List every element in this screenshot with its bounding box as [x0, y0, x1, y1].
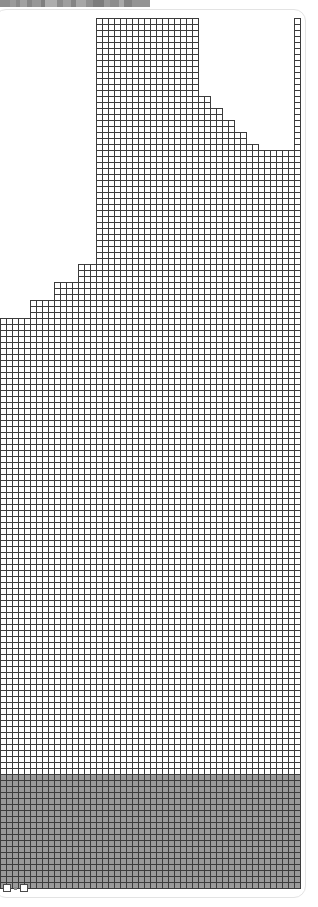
grid-cell[interactable]: [13, 859, 19, 865]
grid-cell[interactable]: [223, 859, 229, 865]
grid-cell[interactable]: [175, 679, 181, 685]
grid-cell[interactable]: [109, 433, 115, 439]
grid-cell[interactable]: [31, 691, 37, 697]
grid-cell[interactable]: [121, 217, 127, 223]
grid-cell[interactable]: [235, 607, 241, 613]
grid-cell[interactable]: [145, 691, 151, 697]
grid-cell[interactable]: [73, 775, 79, 781]
grid-cell[interactable]: [205, 661, 211, 667]
grid-cell[interactable]: [295, 505, 301, 511]
grid-cell[interactable]: [163, 475, 169, 481]
grid-cell[interactable]: [289, 313, 295, 319]
grid-cell[interactable]: [97, 355, 103, 361]
grid-cell[interactable]: [55, 733, 61, 739]
grid-cell[interactable]: [49, 373, 55, 379]
grid-cell[interactable]: [109, 619, 115, 625]
grid-cell[interactable]: [211, 583, 217, 589]
grid-cell[interactable]: [151, 757, 157, 763]
grid-cell[interactable]: [253, 457, 259, 463]
grid-cell[interactable]: [133, 685, 139, 691]
grid-cell[interactable]: [283, 277, 289, 283]
grid-cell[interactable]: [271, 403, 277, 409]
grid-cell[interactable]: [133, 181, 139, 187]
grid-cell[interactable]: [271, 643, 277, 649]
grid-cell[interactable]: [289, 385, 295, 391]
grid-cell[interactable]: [241, 685, 247, 691]
grid-cell[interactable]: [115, 145, 121, 151]
grid-cell[interactable]: [49, 697, 55, 703]
grid-cell[interactable]: [61, 361, 67, 367]
grid-cell[interactable]: [37, 301, 43, 307]
grid-cell[interactable]: [205, 697, 211, 703]
grid-cell[interactable]: [25, 529, 31, 535]
grid-cell[interactable]: [109, 691, 115, 697]
grid-cell[interactable]: [241, 319, 247, 325]
grid-cell[interactable]: [139, 445, 145, 451]
grid-cell[interactable]: [199, 355, 205, 361]
grid-cell[interactable]: [283, 619, 289, 625]
grid-cell[interactable]: [151, 679, 157, 685]
grid-cell[interactable]: [295, 193, 301, 199]
grid-cell[interactable]: [277, 637, 283, 643]
grid-cell[interactable]: [133, 505, 139, 511]
grid-cell[interactable]: [1, 643, 7, 649]
grid-cell[interactable]: [43, 673, 49, 679]
grid-cell[interactable]: [283, 193, 289, 199]
grid-cell[interactable]: [109, 637, 115, 643]
grid-cell[interactable]: [259, 619, 265, 625]
grid-cell[interactable]: [139, 151, 145, 157]
grid-cell[interactable]: [157, 157, 163, 163]
grid-cell[interactable]: [181, 709, 187, 715]
grid-cell[interactable]: [139, 649, 145, 655]
grid-cell[interactable]: [133, 481, 139, 487]
grid-cell[interactable]: [229, 829, 235, 835]
grid-cell[interactable]: [79, 601, 85, 607]
grid-cell[interactable]: [289, 187, 295, 193]
grid-cell[interactable]: [43, 763, 49, 769]
grid-cell[interactable]: [295, 307, 301, 313]
grid-cell[interactable]: [193, 277, 199, 283]
grid-cell[interactable]: [97, 835, 103, 841]
grid-cell[interactable]: [103, 775, 109, 781]
grid-cell[interactable]: [235, 511, 241, 517]
grid-cell[interactable]: [259, 601, 265, 607]
grid-cell[interactable]: [49, 739, 55, 745]
grid-cell[interactable]: [145, 205, 151, 211]
grid-cell[interactable]: [115, 649, 121, 655]
grid-cell[interactable]: [295, 817, 301, 823]
grid-cell[interactable]: [271, 577, 277, 583]
grid-cell[interactable]: [73, 763, 79, 769]
grid-cell[interactable]: [7, 787, 13, 793]
grid-cell[interactable]: [241, 781, 247, 787]
grid-cell[interactable]: [151, 559, 157, 565]
grid-cell[interactable]: [181, 655, 187, 661]
grid-cell[interactable]: [145, 541, 151, 547]
grid-cell[interactable]: [241, 379, 247, 385]
grid-cell[interactable]: [109, 847, 115, 853]
grid-cell[interactable]: [271, 853, 277, 859]
grid-cell[interactable]: [115, 229, 121, 235]
grid-cell[interactable]: [145, 421, 151, 427]
grid-cell[interactable]: [43, 877, 49, 883]
grid-cell[interactable]: [265, 457, 271, 463]
grid-cell[interactable]: [289, 331, 295, 337]
grid-cell[interactable]: [73, 847, 79, 853]
grid-cell[interactable]: [61, 553, 67, 559]
grid-cell[interactable]: [175, 79, 181, 85]
grid-cell[interactable]: [235, 739, 241, 745]
grid-cell[interactable]: [25, 397, 31, 403]
grid-cell[interactable]: [259, 445, 265, 451]
grid-cell[interactable]: [157, 679, 163, 685]
grid-cell[interactable]: [67, 877, 73, 883]
grid-cell[interactable]: [181, 235, 187, 241]
grid-cell[interactable]: [235, 151, 241, 157]
grid-cell[interactable]: [31, 649, 37, 655]
grid-cell[interactable]: [157, 445, 163, 451]
grid-cell[interactable]: [283, 319, 289, 325]
grid-cell[interactable]: [37, 619, 43, 625]
grid-cell[interactable]: [199, 145, 205, 151]
grid-cell[interactable]: [145, 217, 151, 223]
grid-cell[interactable]: [199, 319, 205, 325]
grid-cell[interactable]: [253, 685, 259, 691]
grid-cell[interactable]: [85, 283, 91, 289]
